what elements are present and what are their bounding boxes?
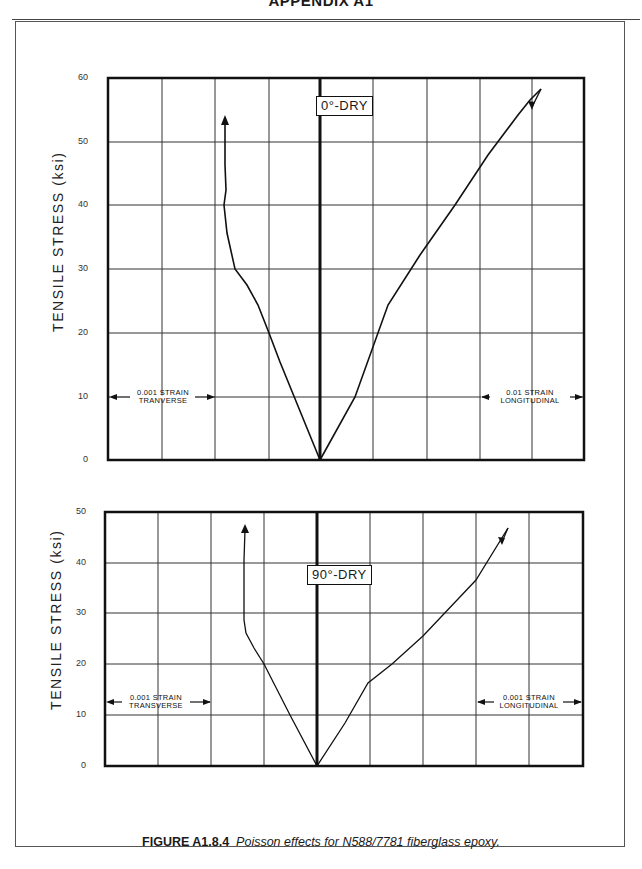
bottom-chart-y-axis-label: TENSILE STRESS (ksi) — [48, 529, 64, 710]
bottom-chart-condition-label: 90°-DRY — [307, 565, 372, 585]
ytick: 60 — [68, 72, 88, 82]
longitudinal-arrowhead-icon — [498, 537, 505, 545]
chart-90deg-dry — [105, 512, 583, 766]
grid-lines — [105, 512, 583, 766]
top-chart-condition-label: 0°-DRY — [316, 96, 373, 116]
transverse-curve — [224, 122, 320, 460]
ytick: 50 — [66, 506, 86, 516]
top-right-scale-label: 0.01 STRAIN LONGITUDINAL — [489, 389, 571, 405]
ytick: 20 — [68, 327, 88, 337]
figure-caption: FIGURE A1.8.4 Poisson effects for N588/7… — [0, 835, 642, 849]
longitudinal-arrowhead-icon — [528, 101, 535, 110]
transverse-arrowhead-icon — [221, 115, 229, 125]
transverse-arrowhead-icon — [241, 524, 249, 533]
bottom-left-scale-label: 0.001 STRAIN TRANSVERSE — [122, 694, 190, 710]
ytick: 0 — [66, 760, 86, 770]
ytick: 50 — [68, 136, 88, 146]
bottom-right-scale-label: 0.001 STRAIN LONGITUDINAL — [494, 694, 564, 710]
ytick: 30 — [68, 263, 88, 273]
longitudinal-curve — [317, 528, 508, 766]
ytick: 40 — [66, 557, 86, 567]
top-chart-y-axis-label: TENSILE STRESS (ksi) — [50, 151, 66, 332]
plot-frame — [105, 512, 583, 766]
top-left-scale-label: 0.001 STRAIN TRANVERSE — [130, 389, 196, 405]
ytick: 30 — [66, 607, 86, 617]
ytick: 0 — [68, 454, 88, 464]
ytick: 10 — [68, 391, 88, 401]
figure-svg — [0, 0, 642, 869]
ytick: 40 — [68, 199, 88, 209]
ytick: 20 — [66, 658, 86, 668]
caption-text: Poisson effects for N588/7781 fiberglass… — [236, 835, 500, 849]
caption-label: FIGURE A1.8.4 — [142, 835, 229, 849]
ytick: 10 — [66, 709, 86, 719]
